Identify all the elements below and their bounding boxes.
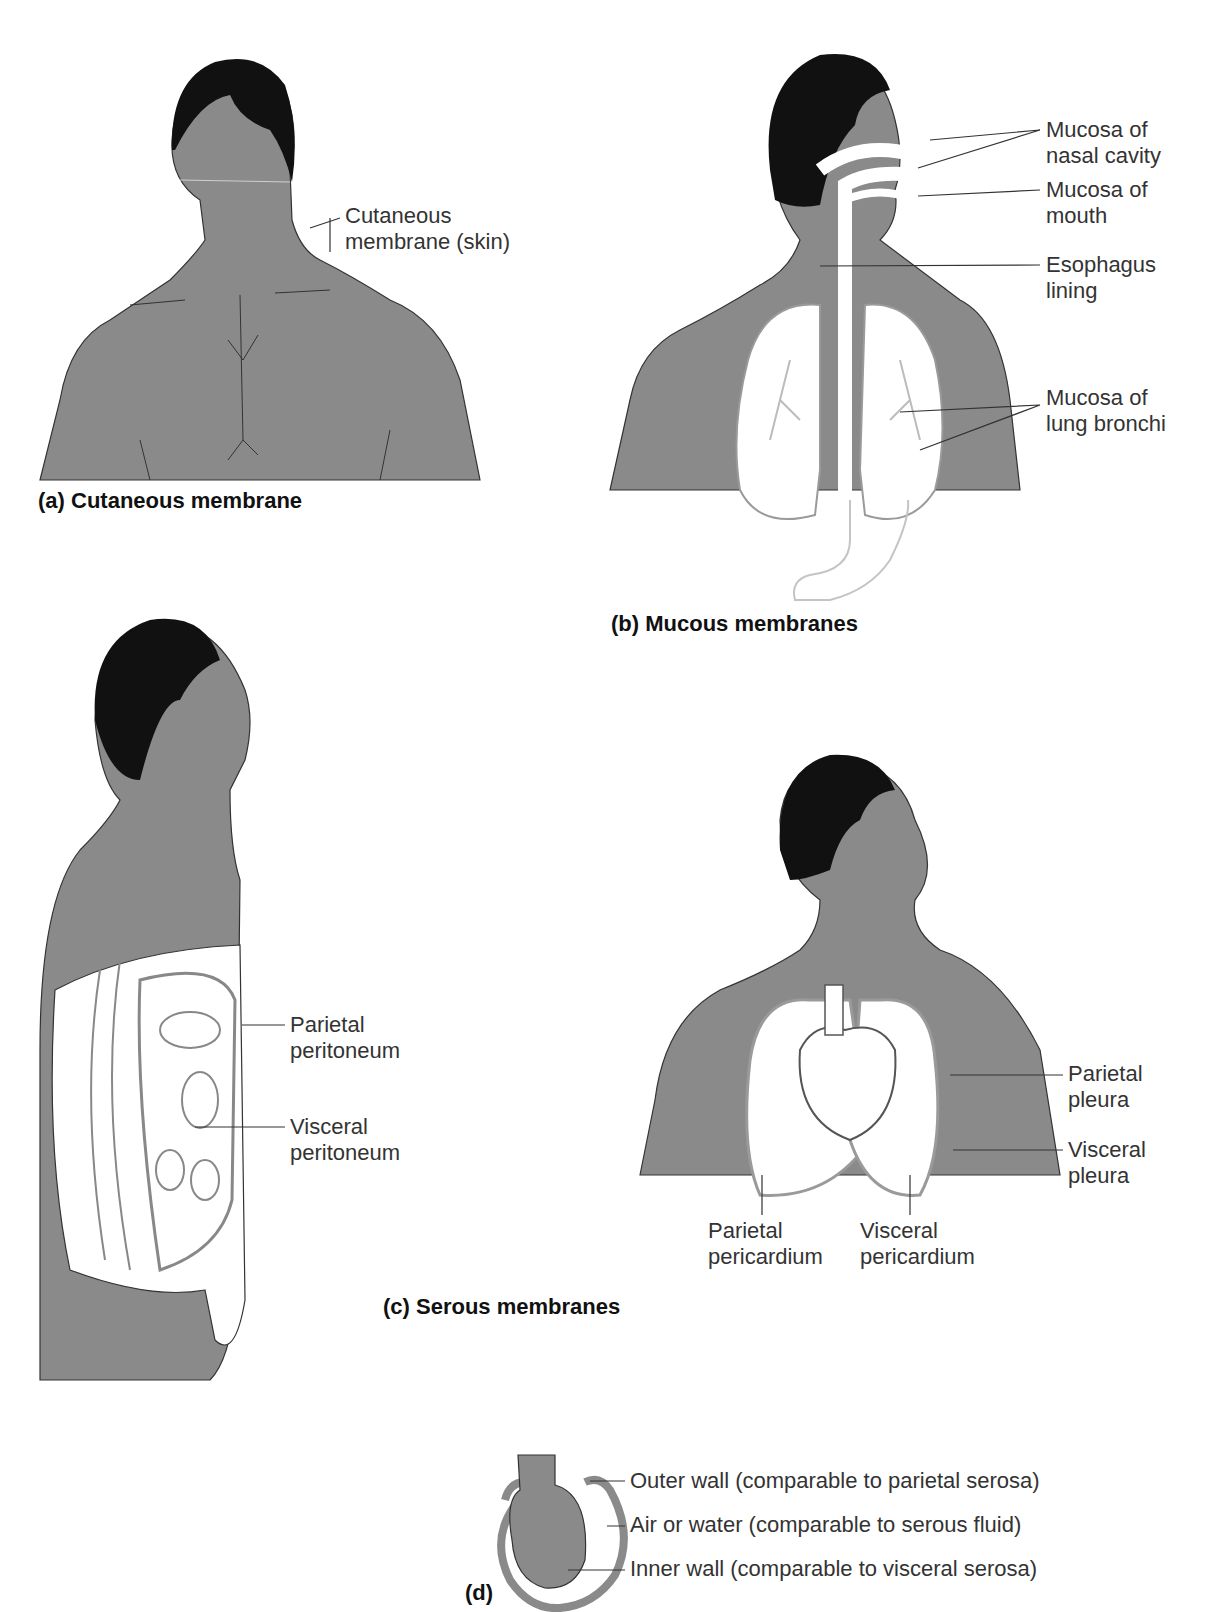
label-mucosa-lung-bronchi: Mucosa of lung bronchi — [1046, 385, 1166, 437]
caption-a: (a) Cutaneous membrane — [38, 488, 302, 514]
label-visceral-pericardium: Visceral pericardium — [860, 1218, 975, 1270]
label-parietal-peritoneum: Parietal peritoneum — [290, 1012, 400, 1064]
label-outer-wall: Outer wall (comparable to parietal seros… — [630, 1468, 1040, 1494]
label-parietal-pleura: Parietal pleura — [1068, 1061, 1143, 1113]
panel-b-figure — [610, 54, 1020, 600]
anatomy-illustration — [0, 0, 1226, 1612]
caption-d: (d) — [465, 1580, 493, 1606]
label-air-or-water: Air or water (comparable to serous fluid… — [630, 1512, 1021, 1538]
panel-a-figure — [40, 59, 480, 480]
label-inner-wall: Inner wall (comparable to visceral seros… — [630, 1556, 1037, 1582]
panel-c-thorax-figure — [640, 755, 1060, 1196]
label-esophagus-lining: Esophagus lining — [1046, 252, 1156, 304]
label-parietal-pericardium: Parietal pericardium — [708, 1218, 823, 1270]
label-cutaneous-membrane: Cutaneous membrane (skin) — [345, 203, 510, 255]
label-mucosa-mouth: Mucosa of mouth — [1046, 177, 1148, 229]
panel-c-abdomen-figure — [40, 619, 250, 1380]
label-visceral-peritoneum: Visceral peritoneum — [290, 1114, 400, 1166]
caption-b: (b) Mucous membranes — [611, 611, 858, 637]
label-mucosa-nasal-cavity: Mucosa of nasal cavity — [1046, 117, 1161, 169]
panel-d-figure — [501, 1455, 624, 1608]
caption-c: (c) Serous membranes — [383, 1294, 620, 1320]
label-visceral-pleura: Visceral pleura — [1068, 1137, 1146, 1189]
